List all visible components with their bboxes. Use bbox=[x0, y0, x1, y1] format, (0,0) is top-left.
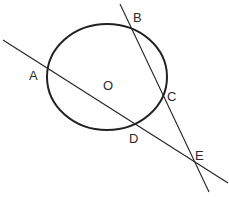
secant-line-bce bbox=[120, 4, 209, 192]
point-label-c: C bbox=[167, 89, 176, 104]
center-label-o: O bbox=[103, 78, 113, 93]
point-label-a: A bbox=[29, 68, 38, 83]
point-label-d: D bbox=[129, 131, 138, 146]
point-label-b: B bbox=[133, 10, 142, 25]
geometry-diagram: B A O C D E bbox=[0, 0, 229, 197]
circle-o bbox=[47, 24, 167, 130]
point-label-e: E bbox=[195, 148, 204, 163]
